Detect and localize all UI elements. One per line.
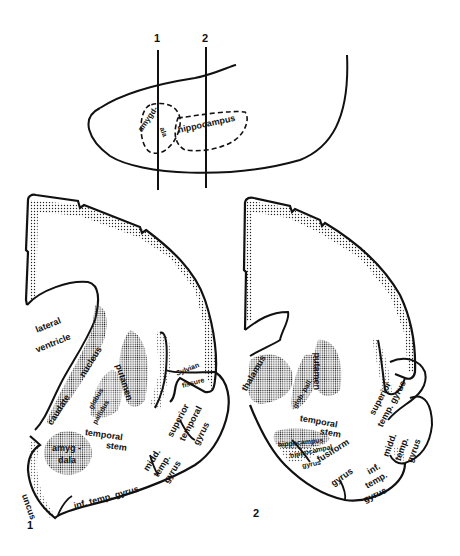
overview-temporal-lobe (89, 55, 348, 173)
brain-diagram-canvas (0, 0, 460, 556)
label-dala: dala (58, 456, 76, 465)
overview-outline (100, 65, 236, 108)
section-marker-1: 1 (154, 33, 160, 44)
section-1-coronal (26, 195, 229, 518)
section-number-1: 1 (27, 520, 33, 531)
section-number-2: 2 (253, 508, 259, 519)
label-amyg: amyg - (52, 444, 81, 453)
label-putamen-2: putamen (312, 353, 321, 391)
section-marker-2: 2 (202, 33, 208, 44)
amygdala-stipple (44, 431, 92, 475)
